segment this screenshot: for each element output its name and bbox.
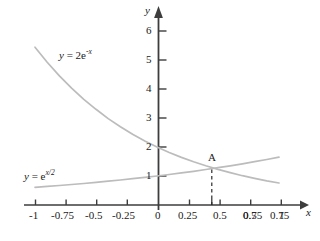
curve-e-to-x-over-2 [35, 157, 279, 187]
curve-label-lower-exponent: x/2 [46, 168, 55, 177]
y-axis [154, 6, 163, 210]
x-tick-label-0-75-main: 0.75 [243, 210, 262, 221]
plot-canvas [0, 0, 320, 241]
y-tick-label-2: 2 [146, 141, 152, 152]
x-tick-label-neg0-75: -0.75 [51, 210, 74, 221]
x-tick-label-neg1: -1 [29, 210, 38, 221]
y-tick-label-3: 3 [146, 112, 152, 123]
exponential-functions-graph: y x 1 2 3 4 5 6 -1 -0.75 -0.5 -0.25 0 0.… [0, 0, 320, 241]
curve-label-upper-equals: = [64, 49, 76, 61]
y-tick-label-6: 6 [146, 25, 152, 36]
x-tick-label-0: 0 [155, 210, 161, 221]
curve-label-2e-minus-x: y = 2e-x [59, 48, 92, 61]
x-tick-label-0-5-main: 0.5 [213, 210, 227, 221]
curve-label-upper-base: 2e [76, 49, 86, 61]
curve-label-e-to-x-over-2: y = ex/2 [24, 169, 55, 182]
x-axis-name: x [306, 207, 311, 218]
x-tick-label-1-main: 1 [279, 210, 285, 221]
x-tick-label-neg0-25: -0.25 [112, 210, 135, 221]
y-tick-label-4: 4 [146, 83, 152, 94]
y-tick-label-5: 5 [146, 54, 152, 65]
y-axis-name: y [145, 5, 150, 16]
y-axis-ticks [159, 31, 167, 176]
curve-2e-minus-x [35, 47, 279, 183]
x-tick-label-neg0-5: -0.5 [85, 210, 102, 221]
curve-label-lower-equals: = [29, 170, 41, 182]
x-tick-label-0-25: 0.25 [178, 210, 197, 221]
y-tick-label-1: 1 [146, 170, 152, 181]
point-a-label: A [208, 152, 216, 163]
curve-label-upper-exponent: -x [86, 47, 92, 56]
